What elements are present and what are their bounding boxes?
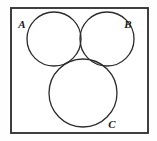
set-label-a: A	[17, 18, 25, 30]
set-label-b: B	[123, 18, 131, 30]
venn-diagram-figure: A B C	[0, 0, 157, 141]
venn-diagram-canvas: A B C	[0, 0, 157, 141]
set-label-c: C	[108, 118, 116, 130]
